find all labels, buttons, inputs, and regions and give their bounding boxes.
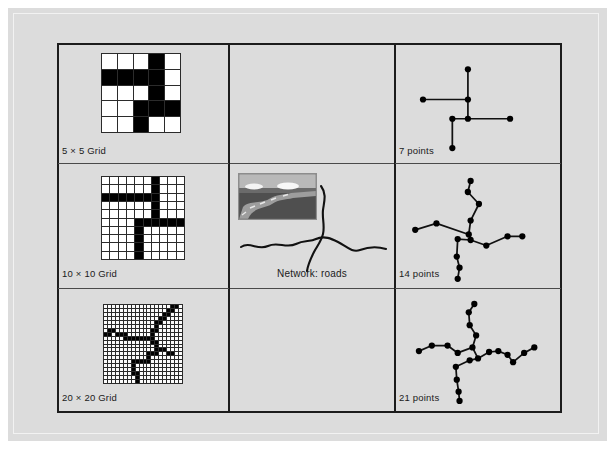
grid-cell (171, 360, 174, 363)
network-edge (436, 223, 468, 234)
grid-cell (152, 219, 159, 226)
grid-cell (124, 305, 127, 308)
grid-cell (128, 321, 131, 324)
grid-cell (116, 305, 119, 308)
grid-cell (104, 329, 107, 332)
grid-cell (116, 325, 119, 328)
grid-cell (152, 194, 159, 201)
grid-cell (120, 317, 123, 320)
grid-cell (144, 317, 147, 320)
grid-cell (175, 368, 178, 371)
grid-cell (179, 364, 182, 367)
network-node (412, 227, 418, 233)
roads-sketch (238, 222, 390, 272)
grid-cell (151, 329, 154, 332)
grid-cell (102, 86, 117, 101)
grid-cell (110, 227, 117, 234)
grid-cell (135, 252, 142, 259)
grid-cell (102, 54, 117, 69)
grid-cell (155, 317, 158, 320)
grid-cell (127, 210, 134, 217)
grid-cell (149, 86, 164, 101)
grid-cell (108, 341, 111, 344)
grid-cell (108, 380, 111, 383)
grid-cell (132, 376, 135, 379)
grid-cell (155, 333, 158, 336)
grid-cell (147, 368, 150, 371)
grid-cell (112, 321, 115, 324)
grid-cell (102, 252, 109, 259)
grid-cell (175, 380, 178, 383)
grid-cell (144, 194, 151, 201)
grid-cell (159, 376, 162, 379)
grid-cell (144, 185, 151, 192)
grid-cell (177, 243, 184, 250)
network-panel-divider-2 (230, 288, 394, 289)
grid-cell (128, 345, 131, 348)
grid-cell (159, 352, 162, 355)
grid-cell (104, 341, 107, 344)
grid-cell (175, 317, 178, 320)
grid-cell (155, 321, 158, 324)
network-node (455, 236, 461, 242)
grid-cell (144, 380, 147, 383)
grid-cell (132, 337, 135, 340)
network-node (454, 377, 460, 383)
grid-cell (110, 194, 117, 201)
grid-cell (140, 325, 143, 328)
grid-cell (110, 235, 117, 242)
network-node (466, 309, 472, 315)
network-node (531, 344, 537, 350)
grid-cell (144, 352, 147, 355)
grid-cell (132, 317, 135, 320)
grid-cell (136, 321, 139, 324)
grid-cell (132, 333, 135, 336)
grid-cell (120, 380, 123, 383)
network-node (467, 357, 473, 363)
network-node (467, 237, 473, 243)
network-node (465, 66, 471, 72)
grid-cell (120, 372, 123, 375)
grid-cell (175, 309, 178, 312)
grid-cell (163, 376, 166, 379)
road-photo (238, 173, 317, 220)
grid-cell (127, 227, 134, 234)
network-node (456, 265, 462, 271)
grid-cell (112, 360, 115, 363)
grid-cell (124, 341, 127, 344)
grid-cell (179, 356, 182, 359)
grid-cell (124, 348, 127, 351)
grid-cell (120, 321, 123, 324)
grid-cell (124, 333, 127, 336)
grid-cell (168, 219, 175, 226)
grid-cell (135, 185, 142, 192)
network-node (444, 342, 450, 348)
grid-cell (159, 333, 162, 336)
grid-cell (167, 321, 170, 324)
grid-cell (128, 305, 131, 308)
grid-cell (163, 317, 166, 320)
grid-cell (171, 356, 174, 359)
grid-cell (177, 219, 184, 226)
grid-cell (118, 70, 133, 85)
grid-cell (120, 376, 123, 379)
grid-cell (134, 70, 149, 85)
grid-cell (116, 376, 119, 379)
grid-cell (119, 243, 126, 250)
grid-cell (151, 333, 154, 336)
network-node (465, 116, 471, 122)
network-node (475, 355, 481, 361)
grid-cell (108, 309, 111, 312)
grid-cell (120, 313, 123, 316)
grid-cell (119, 177, 126, 184)
grid-cell (160, 243, 167, 250)
grid-cell (108, 368, 111, 371)
grid-cell (135, 202, 142, 209)
grid-cell (144, 376, 147, 379)
grid-cell (128, 348, 131, 351)
grid-cell (163, 313, 166, 316)
grid-cell (132, 305, 135, 308)
grid-cell (118, 86, 133, 101)
grid-cell (112, 333, 115, 336)
grid-cell (104, 360, 107, 363)
